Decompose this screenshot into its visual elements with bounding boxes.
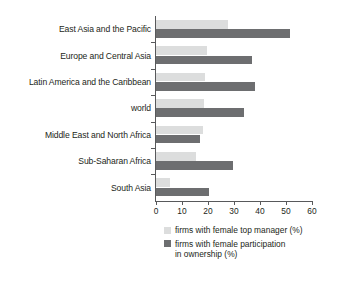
plot-area: East Asia and the PacificEurope and Cent… [0, 0, 346, 200]
category-label: Europe and Central Asia [60, 51, 151, 61]
bar-female-ownership [156, 188, 209, 197]
legend-swatch-icon-light [164, 227, 171, 234]
category-label: world [131, 103, 151, 113]
bar-female-top-manager [156, 152, 196, 161]
bar-row: Latin America and the Caribbean [0, 69, 346, 95]
legend-item-top-manager: firms with female top manager (%) [164, 225, 346, 236]
bar-female-ownership [156, 161, 233, 170]
x-axis-tick [260, 201, 261, 205]
bar-row: South Asia [0, 174, 346, 200]
category-label: Sub-Saharan Africa [78, 156, 151, 166]
chart-legend: firms with female top manager (%) firms … [164, 225, 346, 263]
y-axis-tick [151, 122, 155, 123]
category-label: East Asia and the Pacific [59, 24, 151, 34]
y-axis-tick [151, 95, 155, 96]
x-axis-tick [286, 201, 287, 205]
bar-female-ownership [156, 108, 244, 117]
x-axis-tick-label: 60 [307, 206, 316, 216]
x-axis-tick-label: 50 [281, 206, 290, 216]
legend-label-ownership: firms with female participation in owner… [175, 239, 285, 260]
x-axis-tick-label: 40 [255, 206, 264, 216]
bar-female-ownership [156, 135, 200, 144]
bar-female-ownership [156, 29, 290, 38]
bar-row: world [0, 95, 346, 121]
x-axis-tick-label: 10 [177, 206, 186, 216]
bar-row: Middle East and North Africa [0, 122, 346, 148]
bar-female-top-manager [156, 20, 228, 29]
bar-row: Europe and Central Asia [0, 42, 346, 68]
y-axis-tick [151, 148, 155, 149]
legend-label-top-manager: firms with female top manager (%) [175, 225, 303, 236]
bar-female-top-manager [156, 178, 170, 187]
y-axis-tick [151, 42, 155, 43]
bar-rows: East Asia and the PacificEurope and Cent… [0, 16, 346, 201]
y-axis-tick [151, 69, 155, 70]
legend-swatch-icon-dark [164, 240, 171, 247]
bar-female-top-manager [156, 126, 203, 135]
bar-female-top-manager [156, 46, 207, 55]
category-label: Middle East and North Africa [45, 130, 151, 140]
category-label: Latin America and the Caribbean [29, 77, 151, 87]
y-axis-tick [151, 174, 155, 175]
x-axis-tick-label: 30 [229, 206, 238, 216]
x-axis-tick [156, 201, 157, 205]
legend-item-ownership: firms with female participation in owner… [164, 239, 346, 260]
x-axis-tick-label: 0 [154, 206, 159, 216]
bar-female-top-manager [156, 99, 204, 108]
bar-row: Sub-Saharan Africa [0, 148, 346, 174]
bar-female-ownership [156, 56, 252, 65]
category-label: South Asia [111, 183, 151, 193]
x-axis-ticks: 0102030405060 [0, 201, 346, 219]
x-axis-tick [234, 201, 235, 205]
bar-chart: East Asia and the PacificEurope and Cent… [0, 0, 346, 282]
bar-female-ownership [156, 82, 255, 91]
x-axis-tick [312, 201, 313, 205]
bar-female-top-manager [156, 73, 205, 82]
bar-row: East Asia and the Pacific [0, 16, 346, 42]
x-axis-tick [208, 201, 209, 205]
x-axis-tick-label: 20 [203, 206, 212, 216]
x-axis-tick [182, 201, 183, 205]
